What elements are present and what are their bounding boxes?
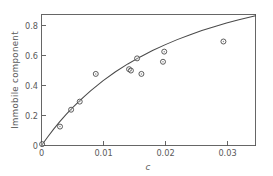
x-tick-label-0.02: 0.02: [156, 148, 174, 158]
data-point-center: [79, 101, 81, 103]
data-point-center: [141, 73, 143, 75]
y-axis-title: Immobile component: [10, 31, 20, 129]
y-tick-label-0.6: 0.6: [25, 51, 38, 61]
data-point-center: [59, 126, 61, 128]
x-tick-label-0: 0: [39, 148, 44, 158]
data-point-center: [70, 109, 72, 111]
y-tick-marks: [42, 26, 47, 146]
data-point-center: [95, 73, 97, 75]
x-tick-labels: 0 0.01 0.02 0.03: [39, 148, 237, 158]
x-tick-marks: [42, 141, 228, 146]
y-tick-label-0.2: 0.2: [25, 111, 38, 121]
y-tick-label-0.4: 0.4: [25, 81, 38, 91]
data-point-center: [136, 58, 138, 60]
data-point-center: [41, 143, 43, 145]
data-point-center: [163, 51, 165, 53]
scatter-plot: 0 0.2 0.4 0.6 0.8 0 0.01 0.02 0.03 c Imm…: [0, 0, 273, 176]
data-points: [40, 39, 226, 147]
axis-frame: [42, 14, 257, 146]
x-axis-title: c: [146, 162, 151, 172]
fit-curve: [42, 16, 256, 146]
data-point-center: [130, 70, 132, 72]
data-point-center: [223, 41, 225, 43]
y-tick-label-0.8: 0.8: [25, 21, 38, 31]
y-tick-label-0: 0: [33, 141, 38, 151]
data-point-center: [162, 61, 164, 63]
fit-curve-path: [42, 16, 256, 146]
x-tick-label-0.01: 0.01: [94, 148, 112, 158]
y-tick-labels: 0 0.2 0.4 0.6 0.8: [25, 21, 38, 151]
x-tick-label-0.03: 0.03: [218, 148, 236, 158]
figure-container: 0 0.2 0.4 0.6 0.8 0 0.01 0.02 0.03 c Imm…: [0, 0, 273, 176]
